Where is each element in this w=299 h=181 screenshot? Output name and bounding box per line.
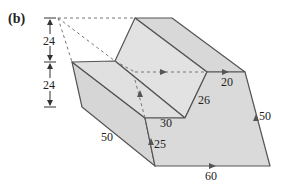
upper-height-label: 24 — [43, 34, 55, 48]
bottom-label: 60 — [205, 169, 217, 181]
inner-bottom-label: 30 — [160, 116, 172, 130]
lower-height-label: 24 — [43, 78, 55, 92]
prism-diagram: (b) 24 24 — [0, 0, 299, 181]
panel-label: (b) — [8, 11, 25, 27]
ridge-right-label: 20 — [221, 75, 233, 89]
front-left-slant-label: 50 — [101, 130, 113, 144]
inner-slant-label: 26 — [198, 93, 210, 107]
vertical-flow-label: 25 — [154, 137, 166, 151]
right-side-label: 50 — [259, 109, 271, 123]
height-dimension — [44, 18, 56, 107]
